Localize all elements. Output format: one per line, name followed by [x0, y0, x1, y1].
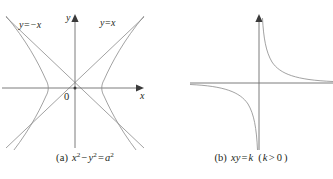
panel-a-caption: (a)x2−y2=a2	[0, 152, 170, 163]
x-axis-label: x	[140, 91, 144, 101]
panel-a-hyperbola-standard: y=−x y=x y x 0 (a)x2−y2=a2	[0, 0, 170, 179]
origin-marker	[74, 87, 77, 90]
asymptote-label-negative: y=−x	[19, 20, 41, 30]
y-axis-arrowhead	[71, 14, 78, 22]
caption-b-zero: 0	[276, 152, 283, 163]
panel-b-caption: (b)xy=k(k>0)	[170, 152, 333, 163]
origin-label: 0	[64, 92, 69, 103]
caption-a-equals: =	[97, 152, 105, 163]
hyperbola-branch-quadrant-3	[190, 85, 258, 151]
panel-b-hyperbola-xy-k: y 0 (b)xy=k(k>0)	[170, 0, 333, 179]
hyperbola-branch-left	[6, 16, 48, 150]
hyperbola-figure: y=−x y=x y x 0 (a)x2−y2=a2 y 0 (	[0, 0, 333, 179]
caption-b-k2: k	[263, 152, 268, 163]
caption-b-k: k	[248, 152, 253, 163]
caption-b-close-paren: )	[283, 152, 289, 163]
panel-b-plot	[170, 0, 333, 150]
y-axis-label: y	[66, 13, 70, 23]
hyperbola-branch-quadrant-1	[263, 18, 333, 82]
hyperbola-branch-right	[102, 16, 144, 150]
caption-b-gt: >	[268, 152, 276, 163]
caption-a-exp3: 2	[110, 151, 114, 159]
y-axis-arrowhead	[255, 14, 262, 22]
asymptote-label-positive: y=x	[100, 18, 116, 28]
